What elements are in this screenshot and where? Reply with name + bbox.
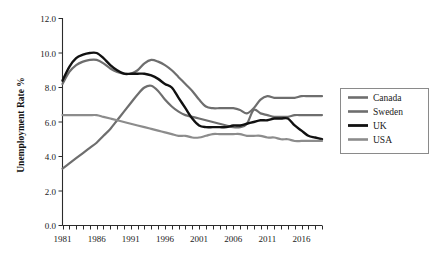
x-tick-label: 2016 <box>293 234 312 244</box>
x-tick-label: 1981 <box>54 234 72 244</box>
y-tick-label: 0.0 <box>45 221 57 231</box>
chart-legend: CanadaSwedenUKUSA <box>341 89 429 154</box>
x-tick-label: 1986 <box>88 234 107 244</box>
y-tick-label: 12.0 <box>40 14 56 24</box>
legend-label-sweden: Sweden <box>373 107 403 117</box>
y-tick-label: 8.0 <box>45 83 57 93</box>
x-tick-label: 2011 <box>259 234 277 244</box>
x-tick-label: 1996 <box>156 234 175 244</box>
y-axis-title: Unemployment Rate % <box>16 77 26 173</box>
y-tick-label: 4.0 <box>45 152 57 162</box>
legend-label-usa: USA <box>373 135 392 145</box>
unemployment-rate-line-chart: Unemployment Rate % 12.0 10.0 8.0 6.0 4.… <box>0 0 435 265</box>
y-tick-label: 10.0 <box>40 49 56 59</box>
legend-label-uk: UK <box>373 121 387 131</box>
y-tick-label: 6.0 <box>45 118 57 128</box>
y-tick-label: 2.0 <box>45 187 57 197</box>
x-tick-label: 2001 <box>190 234 208 244</box>
x-tick-label: 2006 <box>224 234 243 244</box>
legend-label-canada: Canada <box>373 93 402 103</box>
x-tick-label: 1991 <box>122 234 140 244</box>
